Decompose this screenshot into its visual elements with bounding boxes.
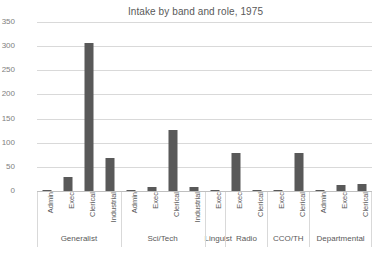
bar-slot xyxy=(309,22,330,191)
x-axis-category-label: Admin xyxy=(47,192,55,213)
bar[interactable] xyxy=(127,190,136,191)
bar-slot xyxy=(163,22,184,191)
group-separator xyxy=(267,192,268,232)
x-axis-category-slot: Clerical xyxy=(163,192,184,232)
bar[interactable] xyxy=(169,130,178,191)
x-axis-category-label: Clerical xyxy=(257,192,265,217)
y-axis-tick-label: 350 xyxy=(0,18,15,26)
bar-slot xyxy=(205,22,226,191)
x-axis-category-labels: AdminExecClericalIndustrialAdminExecCler… xyxy=(37,192,372,232)
x-axis-category-label: Exec xyxy=(278,192,286,209)
x-axis-category-slot: Exec xyxy=(225,192,246,232)
x-axis-category-label: Clerical xyxy=(362,192,370,217)
x-axis-category-slot: Admin xyxy=(37,192,58,232)
x-axis-category-slot: Exec xyxy=(142,192,163,232)
bar[interactable] xyxy=(85,43,94,191)
bar[interactable] xyxy=(357,184,366,191)
x-axis-category-label: Clerical xyxy=(89,192,97,217)
bar-slot xyxy=(142,22,163,191)
bar[interactable] xyxy=(190,187,199,191)
bar[interactable] xyxy=(294,153,303,191)
bar-slot xyxy=(121,22,142,191)
group-separator xyxy=(309,232,310,247)
x-axis-category-slot: Exec xyxy=(205,192,226,232)
bar-slot xyxy=(37,22,58,191)
x-axis-group-label: Sci/Tech xyxy=(121,233,205,247)
y-axis-tick-label: 50 xyxy=(0,163,15,171)
x-axis-category-label: Industrial xyxy=(194,192,202,222)
group-separator xyxy=(121,232,122,247)
bar-slot xyxy=(184,22,205,191)
bar-slot xyxy=(58,22,79,191)
bar-slot xyxy=(351,22,372,191)
x-axis-category-slot: Clerical xyxy=(79,192,100,232)
x-axis-category-slot: Clerical xyxy=(288,192,309,232)
group-separator xyxy=(371,192,372,232)
group-separator xyxy=(205,232,206,247)
bar[interactable] xyxy=(148,187,157,191)
bar[interactable] xyxy=(64,177,73,191)
bar[interactable] xyxy=(315,190,324,191)
bar[interactable] xyxy=(231,153,240,191)
x-axis-category-slot: Clerical xyxy=(351,192,372,232)
x-axis-category-slot: Admin xyxy=(309,192,330,232)
x-axis-category-slot: Clerical xyxy=(246,192,267,232)
group-separator xyxy=(225,232,226,247)
x-axis-category-label: Exec xyxy=(215,192,223,209)
x-axis-group-label: CCO/TH xyxy=(267,233,309,247)
bar-slot xyxy=(288,22,309,191)
bar-slot xyxy=(267,22,288,191)
x-axis-category-label: Exec xyxy=(236,192,244,209)
bar-slot xyxy=(330,22,351,191)
bar[interactable] xyxy=(106,158,115,191)
x-axis-group-label: Radio xyxy=(225,233,267,247)
bar-slot xyxy=(225,22,246,191)
bar[interactable] xyxy=(252,190,261,191)
x-axis-group-labels: GeneralistSci/TechLinguistRadioCCO/THDep… xyxy=(37,233,372,253)
group-separator xyxy=(37,232,38,247)
bar-chart: Intake by band and role, 1975 3503002502… xyxy=(0,0,391,258)
group-separator xyxy=(371,232,372,247)
x-axis-category-label: Industrial xyxy=(110,192,118,222)
x-axis-category-label: Exec xyxy=(341,192,349,209)
x-axis-category-slot: Exec xyxy=(267,192,288,232)
bar-slot xyxy=(79,22,100,191)
group-separator xyxy=(267,232,268,247)
x-axis-category-label: Clerical xyxy=(173,192,181,217)
bar[interactable] xyxy=(43,190,52,191)
group-separator xyxy=(225,192,226,232)
x-axis-category-slot: Industrial xyxy=(184,192,205,232)
x-axis-category-label: Exec xyxy=(152,192,160,209)
chart-title: Intake by band and role, 1975 xyxy=(0,6,391,17)
group-separator xyxy=(37,192,38,232)
x-axis-category-label: Exec xyxy=(68,192,76,209)
group-separator xyxy=(309,192,310,232)
bar-series xyxy=(37,22,372,191)
y-axis-tick-label: 200 xyxy=(0,90,15,98)
bar-slot xyxy=(246,22,267,191)
x-axis-category-slot: Industrial xyxy=(100,192,121,232)
y-axis-tick-label: 300 xyxy=(0,42,15,50)
y-axis-tick-label: 100 xyxy=(0,139,15,147)
x-axis-category-label: Clerical xyxy=(299,192,307,217)
x-axis-category-slot: Exec xyxy=(330,192,351,232)
y-axis-tick-label: 150 xyxy=(0,115,15,123)
group-separator xyxy=(205,192,206,232)
y-axis-tick-label: 0 xyxy=(0,187,15,195)
x-axis-category-label: Admin xyxy=(320,192,328,213)
x-axis-category-label: Admin xyxy=(131,192,139,213)
bar-slot xyxy=(100,22,121,191)
bar[interactable] xyxy=(336,185,345,191)
x-axis-group-label: Generalist xyxy=(37,233,121,247)
x-axis-category-slot: Exec xyxy=(58,192,79,232)
x-axis-group-label: Departmental xyxy=(309,233,372,247)
x-axis-category-slot: Admin xyxy=(121,192,142,232)
group-separator xyxy=(121,192,122,232)
x-axis-group-label: Linguist xyxy=(205,233,226,247)
y-axis-tick-label: 250 xyxy=(0,66,15,74)
